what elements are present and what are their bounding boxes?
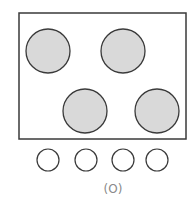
burner-bottom-right — [135, 89, 179, 133]
burner-bottom-left — [63, 89, 107, 133]
burners — [26, 29, 179, 133]
knobs — [37, 149, 168, 171]
knob-1 — [37, 149, 59, 171]
figure-caption: (O) — [0, 182, 196, 196]
burner-top-left — [26, 29, 70, 73]
burner-top-right — [101, 29, 145, 73]
knob-4 — [146, 149, 168, 171]
stovetop-diagram — [0, 0, 196, 205]
knob-2 — [75, 149, 97, 171]
knob-3 — [112, 149, 134, 171]
